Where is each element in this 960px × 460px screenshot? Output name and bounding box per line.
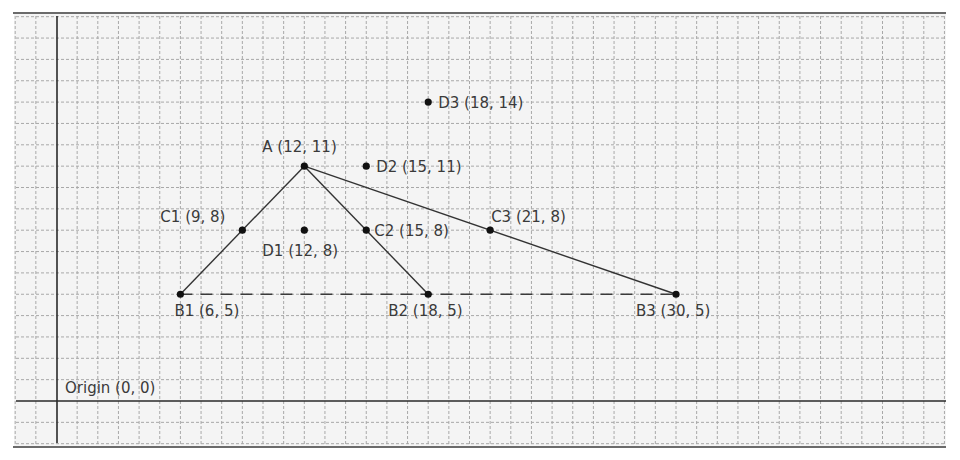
point-b1 xyxy=(177,291,184,298)
point-b3 xyxy=(672,291,679,298)
point-a xyxy=(301,163,308,170)
coordinate-grid-diagram: A (12, 11)B1 (6, 5)B2 (18, 5)B3 (30, 5)C… xyxy=(0,0,960,460)
point-c1 xyxy=(239,227,246,234)
origin-label: Origin (0, 0) xyxy=(65,379,155,397)
point-label-b3: B3 (30, 5) xyxy=(636,302,710,320)
point-d1 xyxy=(301,227,308,234)
point-d3 xyxy=(425,99,432,106)
point-label-d3: D3 (18, 14) xyxy=(438,94,523,112)
point-label-a: A (12, 11) xyxy=(262,138,336,156)
point-label-d2: D2 (15, 11) xyxy=(376,158,461,176)
point-label-c2: C2 (15, 8) xyxy=(374,222,449,240)
point-c3 xyxy=(487,227,494,234)
point-b2 xyxy=(425,291,432,298)
point-label-c1: C1 (9, 8) xyxy=(160,208,225,226)
point-label-d1: D1 (12, 8) xyxy=(262,242,338,260)
point-c2 xyxy=(363,227,370,234)
point-d2 xyxy=(363,163,370,170)
point-label-b2: B2 (18, 5) xyxy=(388,302,462,320)
point-label-c3: C3 (21, 8) xyxy=(491,208,566,226)
point-label-b1: B1 (6, 5) xyxy=(174,302,239,320)
